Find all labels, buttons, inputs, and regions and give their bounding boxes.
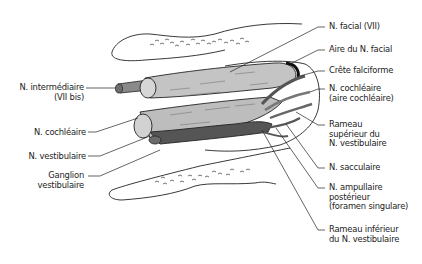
nerve-cochleo-vestibular: [134, 97, 282, 144]
label-n-cochleaire: N. cochléaire: [0, 128, 86, 138]
upper-bone-outline: [112, 23, 302, 60]
label-crete-falciforme: Crête falciforme: [329, 66, 393, 76]
label-ganglion-vestibulaire: Ganglion vestibulaire: [0, 171, 84, 190]
label-n-facial: N. facial (VII): [329, 22, 380, 32]
label-n-sacculaire: N. sacculaire: [329, 163, 380, 173]
label-rameau-superieur: Rameau supérieur du N. vestibulaire: [329, 120, 387, 149]
label-n-cochleaire-aire: N. cochléaire (aire cochléaire): [329, 84, 394, 103]
label-rameau-inferieur: Rameau inférieur du N. vestibulaire: [329, 225, 399, 244]
lower-bone-outline: [109, 148, 290, 200]
label-n-intermediaire: N. intermédiaire (VII bis): [0, 83, 84, 102]
lower-bone-texture: [155, 169, 250, 184]
label-aire-n-facial: Aire du N. facial: [329, 45, 392, 55]
upper-bone-texture: [150, 38, 249, 46]
label-n-vestibulaire: N. vestibulaire: [0, 152, 86, 162]
label-n-ampullaire-posterieur: N. ampullaire postérieur (foramen singul…: [329, 183, 408, 212]
